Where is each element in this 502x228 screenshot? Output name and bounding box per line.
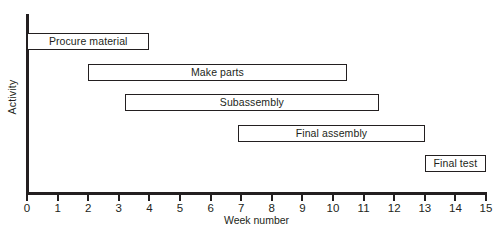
x-tick-mark	[240, 195, 242, 201]
gantt-bar: Procure material	[27, 33, 149, 50]
x-tick-label: 11	[349, 202, 379, 214]
gantt-bar-label: Subassembly	[220, 97, 284, 108]
x-axis-line	[26, 192, 487, 195]
gantt-bar: Make parts	[88, 64, 347, 81]
x-tick-label: 9	[287, 202, 317, 214]
x-tick-label: 5	[165, 202, 195, 214]
y-axis-title: Activity	[0, 0, 24, 194]
gantt-bar-label: Final test	[434, 158, 478, 169]
x-tick-mark	[424, 195, 426, 201]
x-tick-label: 15	[471, 202, 501, 214]
gantt-bar: Final test	[425, 155, 486, 172]
x-tick-label: 1	[43, 202, 73, 214]
x-tick-mark	[332, 195, 334, 201]
gantt-bar-label: Final assembly	[296, 128, 367, 139]
x-tick-label: 10	[318, 202, 348, 214]
x-tick-mark	[148, 195, 150, 201]
x-tick-mark	[301, 195, 303, 201]
x-tick-mark	[393, 195, 395, 201]
x-tick-label: 12	[379, 202, 409, 214]
x-tick-mark	[210, 195, 212, 201]
x-tick-mark	[454, 195, 456, 201]
x-tick-mark	[26, 195, 28, 201]
x-tick-mark	[271, 195, 273, 201]
x-tick-label: 0	[12, 202, 42, 214]
gantt-chart: Activity 0123456789101112131415 Procure …	[0, 0, 502, 228]
x-tick-label: 7	[226, 202, 256, 214]
x-tick-mark	[363, 195, 365, 201]
x-tick-mark	[118, 195, 120, 201]
x-tick-label: 4	[134, 202, 164, 214]
gantt-bar: Subassembly	[125, 94, 379, 111]
gantt-bar-label: Procure material	[49, 36, 128, 47]
y-axis-title-label: Activity	[6, 80, 18, 115]
x-tick-label: 8	[257, 202, 287, 214]
x-tick-mark	[179, 195, 181, 201]
x-tick-mark	[57, 195, 59, 201]
gantt-bar-label: Make parts	[191, 67, 244, 78]
x-tick-label: 14	[440, 202, 470, 214]
x-tick-label: 3	[104, 202, 134, 214]
x-tick-mark	[485, 195, 487, 201]
x-tick-mark	[87, 195, 89, 201]
x-tick-label: 13	[410, 202, 440, 214]
x-tick-label: 6	[196, 202, 226, 214]
x-axis-title: Week number	[26, 214, 487, 226]
x-tick-label: 2	[73, 202, 103, 214]
gantt-bar: Final assembly	[238, 125, 425, 142]
